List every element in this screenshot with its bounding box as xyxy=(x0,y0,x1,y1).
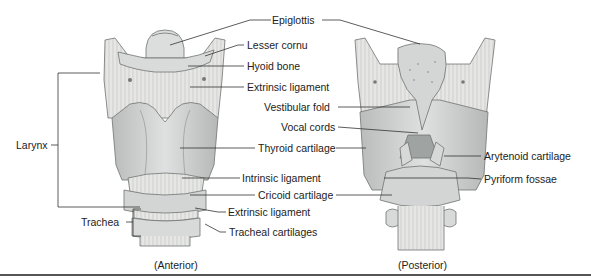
label-epiglottis: Epiglottis xyxy=(272,14,315,26)
bracket-label-larynx: Larynx xyxy=(16,139,48,151)
label-vestibular-fold: Vestibular fold xyxy=(264,101,330,113)
bracket-label-trachea: Trachea xyxy=(81,216,119,228)
label-lesser-cornu: Lesser cornu xyxy=(247,39,308,51)
larynx-diagram: Epiglottis Lesser cornu Hyoid bone Extri… xyxy=(0,0,591,279)
label-pyriform-fossae: Pyriform fossae xyxy=(484,173,557,185)
view-caption-anterior: (Anterior) xyxy=(154,259,198,271)
label-vocal-cords: Vocal cords xyxy=(281,121,335,133)
label-extrinsic-ligament-lower: Extrinsic ligament xyxy=(228,206,310,218)
label-intrinsic-ligament: Intrinsic ligament xyxy=(242,172,321,184)
label-arytenoid-cartilage: Arytenoid cartilage xyxy=(484,150,571,162)
label-extrinsic-ligament-upper: Extrinsic ligament xyxy=(247,81,329,93)
view-caption-posterior: (Posterior) xyxy=(398,259,447,271)
posterior-larynx xyxy=(355,38,495,250)
label-hyoid-bone: Hyoid bone xyxy=(247,60,300,72)
label-thyroid-cartilage: Thyroid cartilage xyxy=(258,142,336,154)
anterior-larynx xyxy=(104,30,225,246)
label-tracheal-cartilages: Tracheal cartilages xyxy=(229,226,317,238)
label-cricoid-cartilage: Cricoid cartilage xyxy=(258,189,333,201)
figure-divider xyxy=(0,274,591,276)
